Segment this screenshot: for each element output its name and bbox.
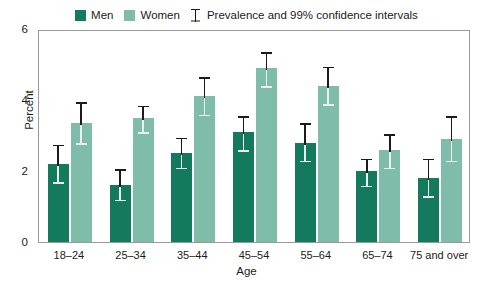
error-bar-stem xyxy=(327,67,329,88)
error-bar-stem xyxy=(428,159,430,180)
x-tick-label: 75 and over xyxy=(399,249,479,261)
legend-swatch-women-icon xyxy=(124,10,135,21)
error-bar-cap-top xyxy=(323,67,334,69)
error-bar-cap-top xyxy=(115,169,126,171)
bar-women xyxy=(194,96,215,242)
bar-women xyxy=(133,118,154,242)
error-bar-stem xyxy=(304,123,306,144)
error-bar-cap-top xyxy=(446,116,457,118)
bar-men xyxy=(356,171,377,242)
legend-entry-women: Women xyxy=(124,9,179,21)
error-bar-cap-top xyxy=(361,159,372,161)
error-bar-upper xyxy=(323,67,334,88)
error-bar-cap-top xyxy=(199,77,210,79)
legend-entry-men: Men xyxy=(75,9,113,21)
legend-label-confidence-interval: Prevalence and 99% confidence intervals xyxy=(207,9,418,21)
error-bar-cap-top xyxy=(53,145,64,147)
legend-entry-confidence-interval: Prevalence and 99% confidence intervals xyxy=(191,9,418,22)
bar-women xyxy=(441,139,462,242)
chart-legend: Men Women Prevalence and 99% confidence … xyxy=(0,6,493,24)
bar-women xyxy=(256,68,277,242)
error-bar-icon xyxy=(191,9,200,22)
error-bar-stem xyxy=(57,145,59,166)
error-bar-cap-top xyxy=(261,52,272,54)
bar-men xyxy=(110,185,131,242)
prevalence-bar-chart: Men Women Prevalence and 99% confidence … xyxy=(0,0,493,282)
bar-women xyxy=(379,150,400,242)
error-bar-cap-top xyxy=(176,138,187,140)
bar-men xyxy=(233,132,254,242)
error-bar-cap-top xyxy=(238,116,249,118)
bar-men xyxy=(171,153,192,242)
error-bar-upper xyxy=(446,116,457,141)
error-bar-cap-top xyxy=(423,159,434,161)
error-bar-stem xyxy=(204,77,206,98)
error-bar-cap-top xyxy=(384,134,395,136)
error-bar-upper xyxy=(199,77,210,98)
legend-label-men: Men xyxy=(91,9,113,21)
error-bar-cap-top xyxy=(76,102,87,104)
bar-women xyxy=(71,123,92,242)
legend-swatch-men-icon xyxy=(75,10,86,21)
error-bar-cap-top xyxy=(138,106,149,108)
bar-men xyxy=(48,164,69,242)
error-bar-upper xyxy=(76,102,87,125)
legend-label-women: Women xyxy=(140,9,179,21)
error-bar-upper xyxy=(300,123,311,144)
error-bar-stem xyxy=(451,116,453,141)
plot-area xyxy=(38,30,470,243)
bar-men xyxy=(418,178,439,242)
error-bar-upper xyxy=(423,159,434,180)
y-axis-title: Percent xyxy=(23,75,35,145)
error-bar-upper xyxy=(53,145,64,166)
y-tick-label: 4 xyxy=(0,95,28,107)
x-axis-title: Age xyxy=(0,265,493,277)
bar-women xyxy=(318,86,339,242)
y-tick-label: 2 xyxy=(0,166,28,178)
error-bar-stem xyxy=(80,102,82,125)
bar-men xyxy=(295,143,316,242)
y-tick-label: 0 xyxy=(0,237,28,249)
y-tick-label: 6 xyxy=(0,24,28,36)
error-bar-cap-top xyxy=(300,123,311,125)
